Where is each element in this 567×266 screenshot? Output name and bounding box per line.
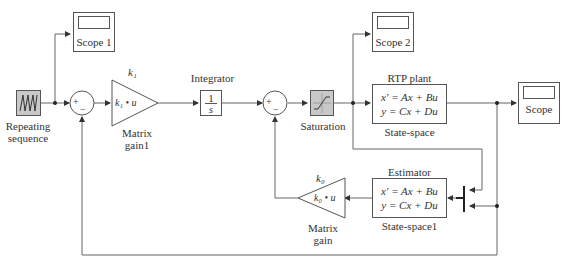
scope1-block[interactable]: Scope 1 [73,12,115,52]
estimator-label: State-space1 [372,220,447,232]
label-line: Matrix [112,127,162,139]
sum2-plus: + [266,96,272,108]
scope-screen-icon [78,16,110,29]
scope2-block[interactable]: Scope 2 [372,12,414,52]
saturation-label: Saturation [300,120,346,132]
output-equation: y = Cx + Du [373,199,446,211]
scope-screen-icon [523,86,555,99]
repeating-sequence-label: Repeating sequence [2,120,54,144]
label-line: Repeating [2,120,54,132]
rtp-plant-label: State-space [372,126,447,138]
scope-block[interactable]: Scope [518,82,560,124]
saturation-block[interactable] [310,90,334,116]
repeating-sequence-block[interactable] [16,90,41,116]
scope-label: Scope [519,103,559,115]
saturation-curve-icon [311,91,333,115]
sum2-minus: − [273,104,279,116]
matrix-gain1-top: k₁ [128,66,137,78]
estimator-state-space-block[interactable]: x′ = Ax + Bu y = Cx + Du [372,178,447,218]
switch-block[interactable] [454,184,468,214]
scope2-label: Scope 2 [373,36,413,48]
integrator-title: Integrator [190,72,235,84]
matrix-gain-top: k₀ [316,172,325,184]
sum1-plus: + [73,96,79,108]
label-line: gain1 [112,139,162,151]
integrator-block[interactable]: 1 s [200,90,222,116]
sum1-minus: − [80,104,86,116]
rtp-plant-state-space-block[interactable]: x′ = Ax + Bu y = Cx + Du [372,84,447,124]
label-line: gain [298,234,348,246]
matrix-gain1-label: Matrix gain1 [112,127,162,151]
state-equation: x′ = Ax + Bu [373,185,446,197]
integrator-denominator: s [201,103,221,115]
matrix-gain-label: Matrix gain [298,222,348,246]
label-line: sequence [2,132,54,144]
state-equation: x′ = Ax + Bu [373,91,446,103]
estimator-title: Estimator [372,166,447,178]
rtp-plant-title: RTP plant [372,72,447,84]
sawtooth-wave-icon [17,91,40,115]
scope-screen-icon [377,16,409,29]
output-equation: y = Cx + Du [373,105,446,117]
matrix-gain1-expression[interactable]: k₁ • u [115,97,136,109]
scope1-label: Scope 1 [74,36,114,48]
label-line: Matrix [298,222,348,234]
matrix-gain-expression[interactable]: k₀ • u [314,192,335,204]
